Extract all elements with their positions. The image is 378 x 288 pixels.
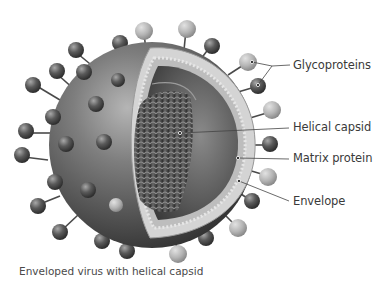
virus-illustration bbox=[0, 0, 378, 288]
label-glycoproteins: Glycoproteins bbox=[293, 58, 371, 72]
label-matrix-protein: Matrix protein bbox=[293, 151, 372, 165]
figure-caption: Enveloped virus with helical capsid bbox=[19, 265, 203, 277]
label-helical-capsid: Helical capsid bbox=[293, 120, 371, 134]
label-envelope: Envelope bbox=[293, 194, 345, 208]
virus-diagram: Glycoproteins Helical capsid Matrix prot… bbox=[0, 0, 378, 288]
